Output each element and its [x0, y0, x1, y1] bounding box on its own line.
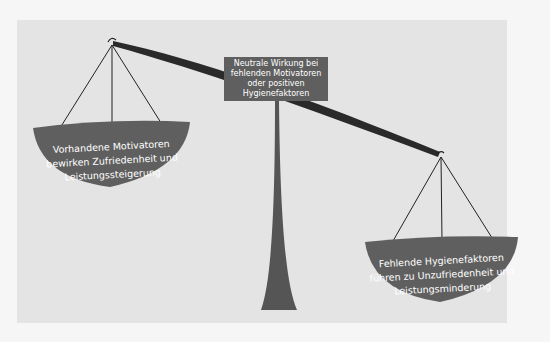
- label-line: fehlenden Motivatoren: [224, 69, 328, 79]
- label-line: Hygienefaktoren: [224, 89, 328, 99]
- right-strings: [393, 157, 494, 241]
- post: [261, 101, 297, 310]
- left-strings: [60, 45, 163, 128]
- neutral-effect-label: Neutrale Wirkung bei fehlenden Motivator…: [224, 57, 328, 101]
- label-line: Neutrale Wirkung bei: [224, 59, 328, 69]
- left-pan-label: Vorhandene Motivatoren bewirken Zufriede…: [31, 136, 193, 186]
- right-pan-label: Fehlende Hygienefaktoren führen zu Unzuf…: [361, 250, 523, 300]
- label-line: oder positiven: [224, 79, 328, 89]
